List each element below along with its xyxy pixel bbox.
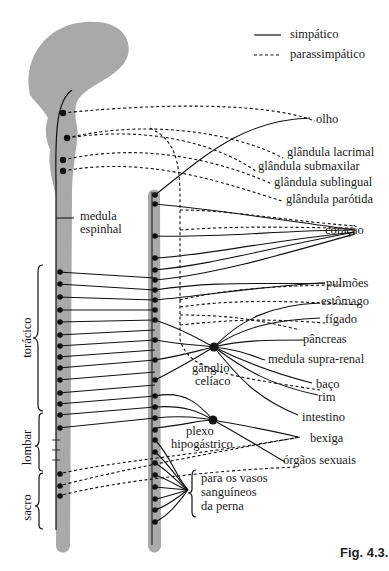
label-lumbar: lombar <box>20 423 35 473</box>
organ-pancreas: pâncreas <box>303 333 347 346</box>
organ-submaxillary: glândula submaxilar <box>258 160 360 173</box>
organ-intestine: intestino <box>302 411 345 424</box>
organ-stomach: estômago <box>321 295 369 308</box>
label-hypogastric-2: hipogástrico <box>171 438 233 451</box>
organ-sublingual: glândula sublingual <box>274 176 372 189</box>
organ-lacrimal: glândula lacrimal <box>287 146 374 159</box>
label-leg-vessels-2: sanguíneos <box>201 486 257 499</box>
label-thoracic: torácico <box>20 313 35 363</box>
organ-sex-organs: órgãos sexuais <box>283 454 356 467</box>
label-leg-vessels-3: da perna <box>201 500 244 513</box>
organ-liver: fígado <box>325 313 357 326</box>
label-leg-vessels-1: para os vasos <box>201 472 268 485</box>
organ-lungs: pulmões <box>326 277 368 290</box>
legend-sympathetic: simpático <box>290 28 339 41</box>
figure-caption: Fig. 4.3. <box>340 545 388 560</box>
organ-parotid: glândula parótida <box>286 193 373 206</box>
organ-heart: coração <box>325 224 364 237</box>
legend-parasympathetic: parassimpático <box>290 48 365 61</box>
label-sacral: sacro <box>20 483 35 533</box>
organ-kidney: rim <box>318 391 335 404</box>
label-spinal-cord-2: espinhal <box>80 223 122 236</box>
organ-adrenal: medula supra-renal <box>268 353 364 366</box>
organ-bladder: bexiga <box>310 432 343 445</box>
label-celiac-2: celíaco <box>195 375 230 388</box>
organ-eye: olho <box>316 113 338 126</box>
